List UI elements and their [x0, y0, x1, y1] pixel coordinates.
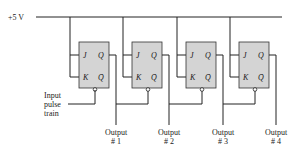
q-pin-label: Q: [151, 51, 157, 60]
j-pin-label: J: [83, 51, 87, 60]
j-pin-label: J: [136, 51, 140, 60]
output-number: # 3: [218, 137, 228, 146]
clock-bubble-icon: [146, 88, 150, 92]
k-pin-label: K: [82, 73, 89, 82]
q-pin-label: Q: [258, 51, 264, 60]
output-number: # 4: [271, 137, 281, 146]
output-label: Output: [265, 128, 288, 137]
k-pin-label: K: [135, 73, 142, 82]
jk-tie-wire: [177, 17, 186, 77]
clock-bubble-icon: [200, 88, 204, 92]
ripple-counter-diagram: +5 V JKQQ̄Output# 1JKQQ̄Output# 2JKQQ̄Ou…: [0, 0, 300, 153]
qbar-pin-label: Q̄: [258, 73, 264, 82]
output-number: # 1: [111, 137, 121, 146]
output-label: Output: [105, 128, 128, 137]
q-output-wire: [216, 55, 223, 125]
input-label-line2: pulse: [44, 100, 61, 109]
clock-bubble-icon: [253, 88, 257, 92]
q-pin-label: Q: [98, 51, 104, 60]
jk-tie-wire: [230, 17, 239, 77]
q-output-wire: [162, 55, 169, 125]
input-label-line3: train: [44, 109, 59, 118]
q-output-wire: [269, 55, 276, 125]
qbar-pin-label: Q̄: [98, 73, 104, 82]
k-pin-label: K: [189, 73, 196, 82]
clock-link-wire: [223, 90, 255, 104]
qbar-pin-label: Q̄: [205, 73, 211, 82]
supply-label: +5 V: [8, 13, 24, 22]
output-number: # 2: [164, 137, 174, 146]
output-label: Output: [212, 128, 235, 137]
q-output-wire: [109, 55, 116, 125]
j-pin-label: J: [190, 51, 194, 60]
output-label: Output: [158, 128, 181, 137]
jk-tie-wire: [70, 17, 79, 77]
k-pin-label: K: [242, 73, 249, 82]
clock-link-wire: [169, 90, 202, 104]
clock-link-wire: [116, 90, 148, 104]
qbar-pin-label: Q̄: [151, 73, 157, 82]
input-label-line1: Input: [44, 91, 62, 100]
j-pin-label: J: [243, 51, 247, 60]
q-pin-label: Q: [205, 51, 211, 60]
jk-tie-wire: [123, 17, 132, 77]
